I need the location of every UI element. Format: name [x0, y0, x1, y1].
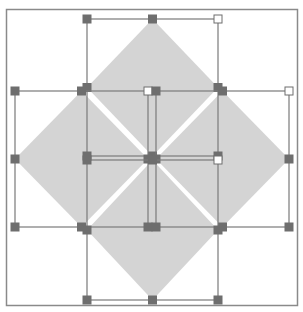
resize-handle-tl[interactable] [83, 156, 91, 164]
resize-handle-bl[interactable] [83, 296, 91, 304]
resize-handle-tl[interactable] [152, 87, 160, 95]
resize-handle-br[interactable] [214, 296, 222, 304]
resize-handle-ml[interactable] [11, 155, 19, 163]
resize-handle-tc[interactable] [219, 87, 227, 95]
resize-handle-bl[interactable] [11, 223, 19, 231]
resize-handle-bl[interactable] [152, 223, 160, 231]
resize-handle-tl[interactable] [11, 87, 19, 95]
resize-handle-br[interactable] [285, 223, 293, 231]
resize-handle-br[interactable] [144, 223, 152, 231]
resize-handle-bc[interactable] [149, 296, 157, 304]
resize-handle-tr[interactable] [285, 87, 293, 95]
resize-handle-mr[interactable] [285, 155, 293, 163]
resize-handle-tc[interactable] [149, 15, 157, 23]
resize-handle-tr[interactable] [144, 87, 152, 95]
resize-handle-tr[interactable] [214, 156, 222, 164]
resize-handle-tc[interactable] [149, 156, 157, 164]
resize-handle-tc[interactable] [78, 87, 86, 95]
diagram-canvas [0, 0, 303, 312]
resize-handle-mr[interactable] [214, 226, 222, 234]
resize-handle-tl[interactable] [83, 15, 91, 23]
resize-handle-tr[interactable] [214, 15, 222, 23]
resize-handle-ml[interactable] [83, 226, 91, 234]
